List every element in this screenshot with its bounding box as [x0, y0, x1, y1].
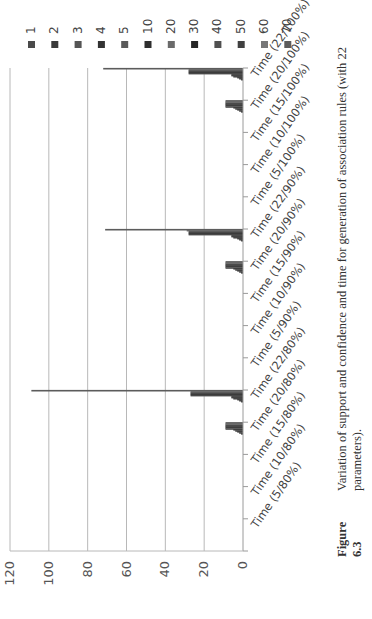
y-tick-label: 0	[235, 561, 250, 569]
y-tick-label: 40	[157, 561, 172, 578]
legend-swatch	[121, 41, 128, 48]
rotated-page: 020406080100120 Time (5/80%)Time (10/80%…	[0, 0, 372, 619]
y-tick-label: 80	[80, 561, 95, 578]
figure-number: Figure 6.3	[335, 505, 365, 557]
bar	[226, 261, 243, 263]
legend-swatch	[145, 41, 152, 48]
y-axis-ticks: 020406080100120	[2, 561, 250, 586]
legend-swatch	[284, 41, 291, 48]
legend-overlay: 1234510203040506070	[0, 0, 372, 90]
bar	[226, 100, 243, 102]
legend-label: 5	[117, 26, 131, 34]
legend-label: 20	[164, 19, 178, 34]
bar-chart: 020406080100120 Time (5/80%)Time (10/80%…	[0, 0, 372, 619]
legend-swatch	[214, 41, 221, 48]
legend-label: 40	[210, 19, 224, 34]
bar-series	[31, 68, 243, 435]
legend-swatch	[168, 41, 175, 48]
legend-swatch	[51, 41, 58, 48]
bar	[105, 229, 243, 231]
legend-swatch	[75, 41, 82, 48]
legend-label: 10	[141, 19, 155, 34]
figure-caption: Figure 6.3 Variation of support and conf…	[338, 0, 362, 619]
bar	[31, 390, 243, 392]
legend-label: 1	[24, 26, 38, 34]
legend-label: 2	[47, 26, 61, 34]
y-tick-label: 60	[119, 561, 134, 578]
gridlines	[10, 68, 204, 551]
legend-label: 50	[234, 19, 248, 34]
legend-swatch	[238, 41, 245, 48]
y-tick-label: 100	[41, 561, 56, 586]
legend-label: 60	[257, 19, 271, 34]
y-tick-label: 20	[196, 561, 211, 578]
legend-swatch	[28, 41, 35, 48]
axes	[10, 68, 248, 551]
legend-label: 30	[187, 19, 201, 34]
bar	[226, 422, 243, 424]
legend-label: 70	[280, 19, 294, 34]
y-tick-label: 120	[2, 561, 17, 586]
legend-swatch	[98, 41, 105, 48]
legend-swatch	[191, 41, 198, 48]
legend-label: 4	[94, 26, 108, 34]
legend-swatch	[261, 41, 268, 48]
legend-label: 3	[71, 26, 85, 34]
